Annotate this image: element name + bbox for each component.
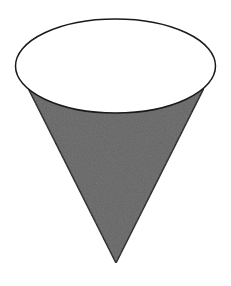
- cone-body: [28, 88, 204, 263]
- cone-figure: [0, 0, 231, 286]
- cone-top-ellipse: [16, 19, 216, 113]
- cone-diagram: [0, 0, 231, 286]
